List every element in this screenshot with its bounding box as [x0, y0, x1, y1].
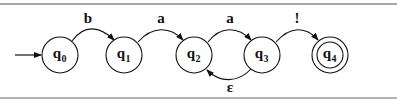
state-q1: q 1	[106, 37, 142, 73]
state-sub-q2: 2	[196, 53, 201, 64]
transition-q0-q1	[72, 29, 114, 41]
state-sub-q3: 3	[264, 53, 269, 64]
transition-label-q1-q2: a	[157, 10, 165, 26]
transition-q2-q3	[208, 30, 251, 42]
state-label-q2: q	[187, 45, 196, 61]
state-label-q1: q	[117, 45, 126, 61]
transition-label-q2-q3: a	[226, 10, 234, 26]
state-q0: q 0	[42, 37, 78, 73]
state-sub-q0: 0	[62, 53, 67, 64]
state-q4-accepting: q 4	[312, 37, 348, 73]
transition-label-q0-q1: b	[84, 10, 92, 26]
state-label-q3: q	[255, 45, 264, 61]
transition-q3-q4	[276, 30, 318, 42]
state-sub-q4: 4	[332, 53, 337, 64]
state-sub-q1: 1	[126, 53, 131, 64]
transition-label-q3-q4: !	[295, 10, 300, 26]
automaton-diagram: b a a ε ! q 0 q 1 q 2 q 3 q 4	[0, 0, 397, 101]
state-label-q4: q	[323, 45, 332, 61]
transition-label-q3-q2: ε	[227, 79, 234, 95]
state-label-q0: q	[53, 45, 62, 61]
state-q2: q 2	[176, 37, 212, 73]
state-q3: q 3	[244, 37, 280, 73]
transition-q1-q2	[138, 30, 183, 42]
